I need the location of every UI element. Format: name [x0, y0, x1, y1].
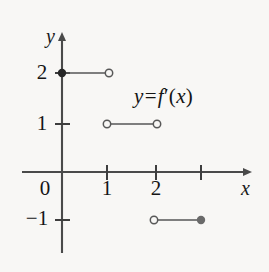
curve-label-operator: = — [144, 84, 158, 108]
segment-y2-open-endpoint — [105, 69, 112, 76]
segment-yneg1 — [150, 216, 205, 224]
x-axis-label: x — [241, 178, 250, 198]
curve-label-argument: x — [176, 84, 186, 108]
y-tick-label-2: 2 — [34, 62, 50, 83]
curve-label-lhs: y — [134, 84, 144, 108]
y-tick-label-neg1: −1 — [24, 208, 50, 229]
segment-y1-open-endpoint-left — [103, 120, 110, 127]
segment-y1-open-endpoint-right — [153, 120, 160, 127]
x-tick-label-2: 2 — [148, 178, 164, 199]
segment-y2 — [58, 69, 113, 77]
segment-y2-closed-endpoint — [58, 69, 66, 77]
plot-canvas — [0, 0, 269, 272]
segment-y1 — [103, 120, 160, 127]
curve-label-close-paren: ) — [186, 84, 193, 108]
segment-yneg1-open-endpoint — [150, 216, 157, 223]
derivative-graph-figure: y x 2 1 −1 0 1 2 y=f′(x) — [0, 0, 269, 272]
y-tick-label-1: 1 — [34, 113, 50, 134]
curve-equation-label: y=f′(x) — [134, 86, 193, 107]
y-axis-label: y — [46, 26, 55, 46]
segment-yneg1-closed-endpoint — [197, 216, 205, 224]
origin-label: 0 — [36, 178, 54, 199]
x-tick-label-1: 1 — [99, 178, 115, 199]
